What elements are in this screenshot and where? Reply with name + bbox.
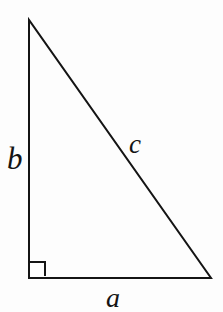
side-label-c: c (129, 131, 141, 158)
right-angle-marker-icon (30, 262, 45, 276)
side-label-b: b (7, 143, 23, 174)
triangle-drawing (0, 0, 223, 312)
side-label-a: a (106, 284, 120, 312)
right-triangle-figure: b c a (0, 0, 223, 312)
triangle-outline (29, 20, 211, 278)
